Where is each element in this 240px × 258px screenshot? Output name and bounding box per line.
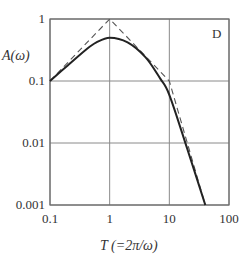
y-tick-label: 0.01 [22,135,45,150]
x-axis-label: T (=2π/ω) [100,238,158,254]
y-axis-label: A(ω) [1,48,30,64]
x-tick-label: 100 [219,211,239,226]
data-series [50,19,205,205]
dashed-asymptote-line [50,19,205,205]
y-tick-label: 1 [39,11,46,26]
panel-label: D [212,26,221,41]
x-tick-label: 1 [106,211,113,226]
x-tick-label: 0.1 [42,211,58,226]
x-tick-label: 10 [163,211,176,226]
plot-frame [50,19,229,205]
x-tick-labels: 0.1110100 [42,211,239,226]
y-tick-labels: 10.10.010.001 [16,11,45,212]
y-tick-label: 0.1 [29,73,45,88]
y-tick-label: 0.001 [16,197,45,212]
log-log-chart: 0.1110100 10.10.010.001 D A(ω) T (=2π/ω) [0,0,240,258]
solid-response-curve [50,38,205,205]
grid-lines [50,19,229,205]
